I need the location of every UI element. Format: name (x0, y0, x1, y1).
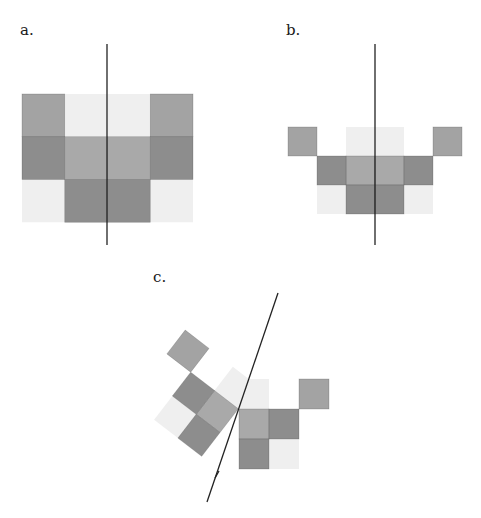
panel-a-square-medium (65, 137, 108, 180)
panel-b: b. (286, 21, 462, 245)
panel-a-square-dark (150, 137, 193, 180)
panel-b-square-dark (346, 185, 375, 214)
panel-c: c. (153, 268, 329, 502)
panel-c-reflected-square-mid (167, 330, 209, 372)
panel-b-square-light (404, 185, 433, 214)
panel-c-square-dark (239, 439, 269, 469)
panel-c-square-mid (299, 379, 329, 409)
panel-a-square-light (65, 94, 108, 137)
panel-b-square-light (375, 127, 404, 156)
panel-a-square-mid (22, 94, 65, 137)
panel-a-square-dark (65, 180, 108, 223)
panel-a-square-medium (108, 137, 151, 180)
panel-b-square-light (317, 185, 346, 214)
panel-c-square-light (269, 439, 299, 469)
panel-a-square-dark (22, 137, 65, 180)
panel-a-label: a. (20, 21, 34, 39)
symmetry-figure: a. b. c. (0, 0, 481, 518)
panel-b-square-medium (346, 156, 375, 185)
panel-a-square-mid (150, 94, 193, 137)
panel-a-square-light (108, 94, 151, 137)
panel-b-square-medium (375, 156, 404, 185)
panel-a-square-light (22, 180, 65, 223)
panel-c-square-dark (269, 409, 299, 439)
panel-a: a. (20, 21, 193, 245)
panel-a-square-dark (108, 180, 151, 223)
panel-c-square-medium (239, 409, 269, 439)
panel-b-square-dark (404, 156, 433, 185)
panel-b-square-mid (433, 127, 462, 156)
panel-b-label: b. (286, 21, 300, 39)
panel-b-square-mid (288, 127, 317, 156)
panel-c-original-squares (239, 379, 329, 469)
panel-b-square-dark (375, 185, 404, 214)
panel-b-square-dark (317, 156, 346, 185)
panel-a-square-light (150, 180, 193, 223)
panel-b-square-light (346, 127, 375, 156)
panel-c-label: c. (153, 268, 166, 286)
